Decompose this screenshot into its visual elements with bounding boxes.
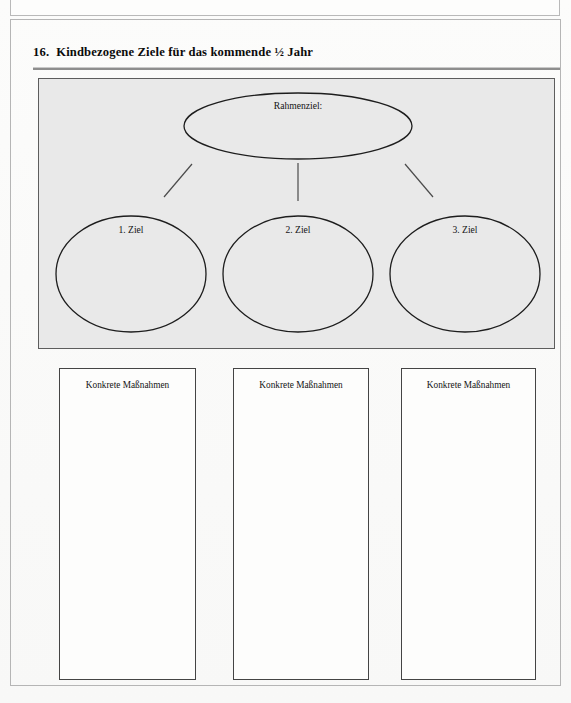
ziel-1-label: 1. Ziel <box>118 224 143 235</box>
section-title: Kindbezogene Ziele für das kommende ½ Ja… <box>56 45 313 59</box>
konkrete-massnahmen-label-1: Konkrete Maßnahmen <box>60 380 195 390</box>
konkrete-massnahmen-label-3: Konkrete Maßnahmen <box>402 380 535 390</box>
goal-diagram: Rahmenziel: 1. Ziel 2. Ziel 3. Ziel <box>39 79 556 350</box>
section-heading: 16.Kindbezogene Ziele für das kommende ½… <box>33 45 553 60</box>
ziel-2-label: 2. Ziel <box>285 224 310 235</box>
section-16-frame: 16.Kindbezogene Ziele für das kommende ½… <box>10 19 561 686</box>
section-heading-divider <box>33 67 560 70</box>
konkrete-massnahmen-box-3[interactable]: Konkrete Maßnahmen <box>401 368 536 680</box>
goal-diagram-panel: Rahmenziel: 1. Ziel 2. Ziel 3. Ziel <box>38 78 555 349</box>
section-number: 16. <box>33 45 49 59</box>
konkrete-massnahmen-label-2: Konkrete Maßnahmen <box>234 380 368 390</box>
ziel-3-label: 3. Ziel <box>452 224 477 235</box>
previous-section-partial <box>10 0 560 16</box>
konkrete-massnahmen-box-1[interactable]: Konkrete Maßnahmen <box>59 368 196 680</box>
connector-left-line <box>164 164 192 197</box>
rahmenziel-label: Rahmenziel: <box>274 100 322 111</box>
connector-right-line <box>405 164 433 197</box>
konkrete-massnahmen-box-2[interactable]: Konkrete Maßnahmen <box>233 368 369 680</box>
